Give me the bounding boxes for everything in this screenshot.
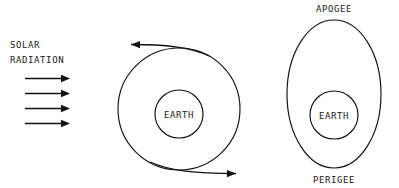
- solar-ray-arrow: [25, 105, 70, 112]
- apogee-label: APOGEE: [316, 4, 352, 14]
- orbit-diagram: SOLAR RADIATION: [0, 0, 399, 188]
- elliptical-orbit-path: [287, 20, 381, 168]
- solar-ray-arrow: [25, 120, 70, 127]
- earth-label-elliptical-orbit: EARTH: [319, 111, 349, 121]
- diagram-canvas: SOLAR RADIATION: [0, 0, 399, 188]
- perigee-label: PERIGEE: [313, 175, 355, 185]
- solar-radiation-label-line-2: RADIATION: [10, 55, 64, 65]
- earth-label-circular-orbit: EARTH: [164, 110, 194, 120]
- solar-ray-arrow: [25, 75, 70, 82]
- solar-radiation-label-line-1: SOLAR: [10, 40, 40, 50]
- circular-orbit-direction-arrow-bottom: [150, 162, 236, 177]
- elliptical-orbit-group: APOGEE EARTH PERIGEE: [287, 4, 381, 185]
- solar-ray-arrow: [25, 90, 70, 97]
- circular-orbit-group: EARTH: [118, 41, 240, 177]
- solar-radiation-rays: [25, 75, 70, 127]
